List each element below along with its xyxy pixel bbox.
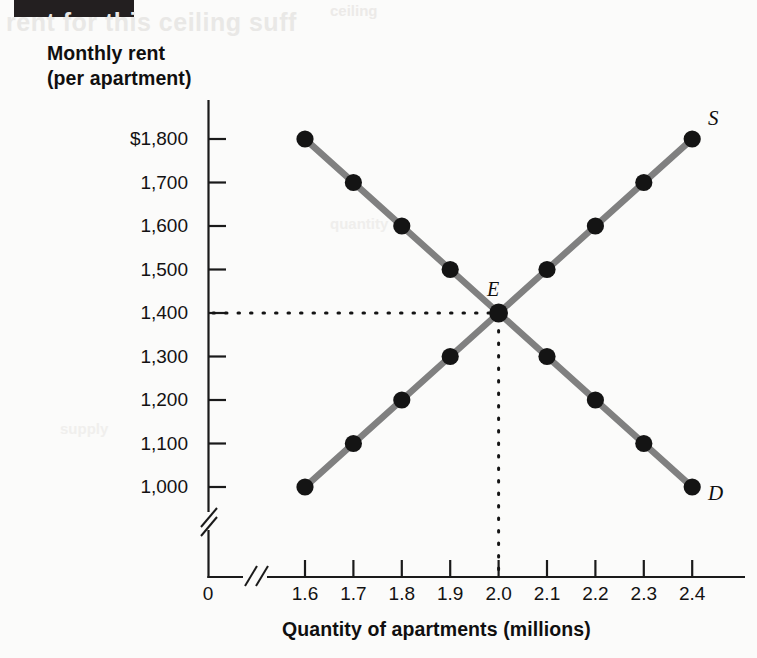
x-tick-label: 2.3: [619, 583, 669, 605]
y-axis-ticks: [208, 139, 226, 487]
x-tick-label: 1.8: [377, 583, 427, 605]
x-tick-label: 2.2: [570, 583, 620, 605]
x-origin-label: 0: [183, 583, 233, 605]
x-tick-label: 1.6: [280, 583, 330, 605]
figure-container: rent for this ceiling suff ceiling quant…: [0, 0, 757, 658]
y-tick-label: 1,000: [96, 476, 188, 498]
y-tick-label: 1,200: [96, 389, 188, 411]
axis-lines: [201, 100, 745, 586]
chart-plot-area: [0, 0, 757, 658]
x-tick-label: 2.4: [667, 583, 717, 605]
x-tick-label: 2.0: [474, 583, 524, 605]
y-tick-label: 1,500: [96, 259, 188, 281]
x-tick-label: 2.1: [522, 583, 572, 605]
equilibrium-label: E: [487, 278, 499, 301]
y-tick-label: 1,300: [96, 346, 188, 368]
y-tick-label: 1,400: [96, 302, 188, 324]
y-tick-label: 1,700: [96, 172, 188, 194]
demand-curve-label: D: [708, 481, 723, 506]
supply-curve-label: S: [708, 106, 719, 131]
y-tick-label: $1,800: [96, 128, 188, 150]
x-tick-label: 1.9: [425, 583, 475, 605]
x-tick-label: 1.7: [328, 583, 378, 605]
y-tick-label: 1,100: [96, 433, 188, 455]
equilibrium-point: [489, 304, 508, 323]
y-tick-label: 1,600: [96, 215, 188, 237]
